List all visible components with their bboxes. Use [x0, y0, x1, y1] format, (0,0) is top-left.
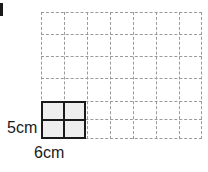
shaded-rectangle [41, 101, 86, 139]
width-dimension-label: 6cm [34, 145, 64, 161]
height-dimension-label: 5cm [7, 120, 37, 136]
grid-line-horizontal-0 [41, 12, 202, 13]
grid-line-horizontal-1 [41, 34, 202, 35]
rectangle-horizontal-divider [43, 119, 84, 121]
figure-canvas: 5cm 6cm [0, 0, 208, 172]
grid-line-horizontal-3 [41, 78, 202, 79]
grid-line-horizontal-2 [41, 56, 202, 57]
corner-tick-mark [0, 3, 3, 16]
